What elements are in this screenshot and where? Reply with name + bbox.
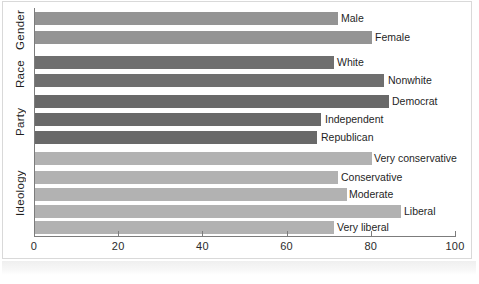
bar-row: Nonwhite bbox=[35, 74, 456, 87]
bar-label: Very liberal bbox=[337, 220, 389, 234]
bar bbox=[35, 56, 334, 69]
bar-label: Republican bbox=[321, 130, 374, 144]
bar-row: Moderate bbox=[35, 188, 456, 201]
bar-label: Moderate bbox=[349, 187, 393, 201]
bar-row: Democrat bbox=[35, 95, 456, 108]
bar-row: Independent bbox=[35, 113, 456, 126]
group-label-race: Race bbox=[14, 54, 30, 94]
bar-row: Male bbox=[35, 12, 456, 25]
bar-label: Independent bbox=[325, 112, 383, 126]
x-tick-mark bbox=[202, 231, 203, 237]
bar-row: White bbox=[35, 56, 456, 69]
bar-label: Female bbox=[375, 30, 410, 44]
bar-label: Conservative bbox=[341, 170, 402, 184]
x-tick-label: 40 bbox=[182, 240, 222, 252]
x-tick-label: 100 bbox=[435, 240, 475, 252]
bar-chart-figure: GenderRacePartyIdeology MaleFemaleWhiteN… bbox=[0, 0, 479, 284]
bar bbox=[35, 95, 389, 108]
bar bbox=[35, 131, 317, 144]
bar-row: Very liberal bbox=[35, 221, 456, 234]
x-tick-mark bbox=[455, 231, 456, 237]
bar-row: Republican bbox=[35, 131, 456, 144]
group-label-gender: Gender bbox=[14, 8, 30, 52]
bar-row: Conservative bbox=[35, 171, 456, 184]
bar bbox=[35, 205, 401, 218]
group-label-ideology: Ideology bbox=[14, 150, 30, 236]
page-shadow bbox=[2, 261, 476, 275]
x-tick-label: 80 bbox=[351, 240, 391, 252]
x-tick-mark bbox=[118, 231, 119, 237]
x-tick-mark bbox=[34, 231, 35, 237]
x-tick-mark bbox=[287, 231, 288, 237]
bar bbox=[35, 74, 384, 87]
bar bbox=[35, 171, 338, 184]
bar bbox=[35, 152, 372, 165]
bar bbox=[35, 221, 334, 234]
bar-row: Female bbox=[35, 31, 456, 44]
bar-label: Nonwhite bbox=[388, 73, 432, 87]
bar-label: Democrat bbox=[392, 94, 438, 108]
bar-label: Liberal bbox=[404, 204, 436, 218]
x-tick-label: 0 bbox=[14, 240, 54, 252]
bar bbox=[35, 188, 347, 201]
bar-label: Very conservative bbox=[374, 151, 457, 165]
x-tick-label: 20 bbox=[98, 240, 138, 252]
bar-row: Liberal bbox=[35, 205, 456, 218]
x-tick-mark bbox=[371, 231, 372, 237]
bar-label: Male bbox=[341, 11, 364, 25]
x-tick-label: 60 bbox=[267, 240, 307, 252]
bar-row: Very conservative bbox=[35, 152, 456, 165]
bar bbox=[35, 31, 372, 44]
x-axis-line bbox=[34, 236, 455, 237]
bar bbox=[35, 113, 321, 126]
bar bbox=[35, 12, 338, 25]
bar-label: White bbox=[337, 55, 364, 69]
group-label-party: Party bbox=[14, 94, 30, 150]
